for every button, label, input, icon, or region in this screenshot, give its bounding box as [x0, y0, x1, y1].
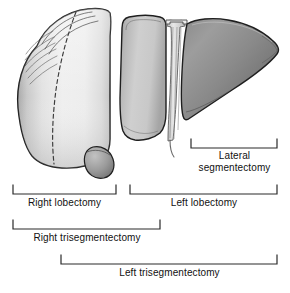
bracket-right-trisegmentectomy: [13, 220, 160, 229]
label-left-trisegmentectomy: Left trisegmentectomy: [61, 267, 278, 279]
label-lateral-segmentectomy-line1: Lateral: [219, 150, 250, 161]
medial-segment-shape: [120, 16, 166, 141]
label-lateral-segmentectomy: Lateral segmentectomy: [191, 150, 278, 173]
bracket-left-lobectomy: [130, 185, 277, 194]
label-left-lobectomy: Left lobectomy: [130, 197, 278, 209]
bracket-left-trisegmentectomy: [61, 255, 277, 264]
right-lobe-shading-overlay: [18, 9, 111, 169]
label-right-lobectomy: Right lobectomy: [13, 197, 116, 209]
bracket-right-lobectomy: [13, 185, 116, 194]
right-lobe-group: [18, 9, 111, 169]
lateral-segment-shape: [181, 19, 278, 120]
ligamentum-teres-tail: [170, 140, 174, 157]
label-right-trisegmentectomy: Right trisegmentectomy: [13, 232, 161, 244]
liver-resection-diagram: [0, 0, 290, 293]
bracket-lateral-segmentectomy: [191, 139, 277, 148]
lateral-segment-group: [181, 19, 278, 120]
medial-segment-group: [120, 16, 166, 141]
label-lateral-segmentectomy-line2: segmentectomy: [199, 162, 271, 173]
gallbladder-group: [84, 147, 114, 179]
